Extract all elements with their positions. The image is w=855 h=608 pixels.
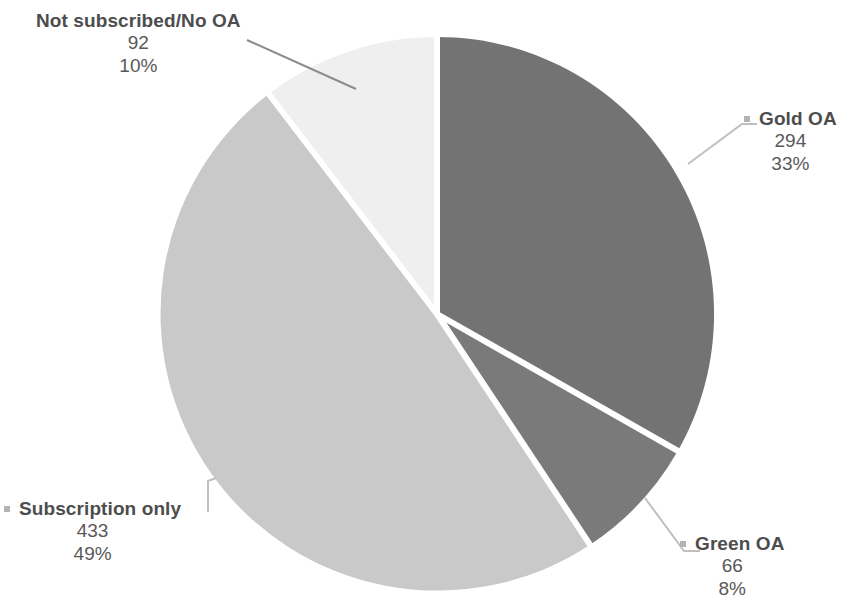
data-label-gold-oa-value: 294 — [744, 130, 837, 152]
data-label-green-oa-value: 66 — [680, 555, 785, 577]
data-label-subscription-only-value: 433 — [4, 520, 181, 542]
data-label-not-subscribed-value: 92 — [36, 32, 241, 54]
square-marker-icon-green-oa — [680, 541, 686, 547]
data-label-gold-oa: Gold OA 294 33% — [744, 108, 837, 175]
data-label-green-oa-percent: 8% — [680, 578, 785, 600]
pie-chart-figure: Not subscribed/No OA 92 10% Gold OA 294 … — [0, 0, 855, 608]
data-label-green-oa: Green OA 66 8% — [680, 533, 785, 600]
square-marker-icon-subscription-only — [4, 506, 10, 512]
data-label-not-subscribed-percent: 10% — [36, 55, 241, 77]
data-label-subscription-only-percent: 49% — [4, 543, 181, 565]
data-label-green-oa-name: Green OA — [695, 533, 785, 554]
data-label-subscription-only-name: Subscription only — [19, 498, 181, 519]
data-label-gold-oa-name: Gold OA — [759, 108, 837, 129]
data-label-not-subscribed: Not subscribed/No OA 92 10% — [36, 10, 241, 77]
leader-line-subscription-only — [208, 478, 216, 512]
data-label-gold-oa-percent: 33% — [744, 153, 837, 175]
data-label-subscription-only: Subscription only 433 49% — [4, 498, 181, 565]
square-marker-icon-gold-oa — [744, 116, 750, 122]
data-label-not-subscribed-name: Not subscribed/No OA — [36, 10, 241, 32]
